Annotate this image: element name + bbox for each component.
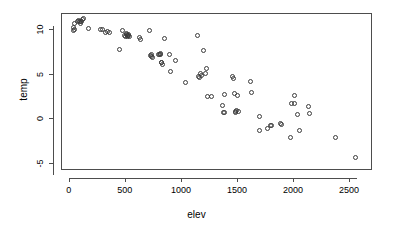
y-tick-label: 10 (35, 23, 46, 37)
x-tick-label: 1000 (161, 185, 201, 196)
x-tick-label: 0 (49, 185, 89, 196)
x-tick-mark (293, 178, 294, 182)
x-axis-title: elev (0, 209, 393, 220)
x-tick-mark (125, 178, 126, 182)
plot-frame-box (61, 13, 372, 170)
y-tick-label: -5 (35, 156, 46, 170)
x-tick-mark (181, 178, 182, 182)
x-tick-mark (237, 178, 238, 182)
y-tick-mark (49, 29, 53, 30)
x-tick-label: 2500 (329, 185, 369, 196)
x-tick-label: 2000 (273, 185, 313, 196)
x-tick-label: 500 (105, 185, 145, 196)
y-tick-label: 5 (35, 67, 46, 81)
y-tick-label: 0 (35, 112, 46, 126)
y-tick-mark (49, 163, 53, 164)
y-tick-mark (49, 118, 53, 119)
scatter-plot-figure: 05001000150020002500 1050-5 elev temp (0, 0, 393, 234)
y-axis-line (53, 26, 54, 175)
x-tick-mark (349, 178, 350, 182)
y-tick-mark (49, 74, 53, 75)
y-axis-title: temp (18, 60, 29, 120)
x-tick-label: 1500 (217, 185, 257, 196)
x-axis-line (69, 178, 357, 179)
x-tick-mark (69, 178, 70, 182)
